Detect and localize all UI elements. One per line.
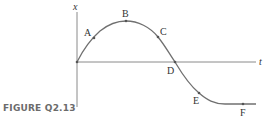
point-b-label: B	[122, 8, 129, 19]
point-a-marker	[93, 37, 96, 40]
point-origin	[76, 61, 79, 64]
point-d-label: D	[167, 65, 174, 76]
figure-caption: FIGURE Q2.13	[3, 103, 76, 113]
point-c-label: C	[160, 26, 167, 37]
point-f-label: F	[240, 107, 246, 118]
point-a-label: A	[84, 27, 92, 38]
vertical-axis-label: x	[72, 1, 78, 12]
horizontal-axis-label: t	[259, 56, 262, 67]
point-c-marker	[157, 36, 160, 39]
point-b-marker	[125, 20, 128, 23]
point-e-marker	[198, 92, 201, 95]
point-f-marker	[242, 103, 245, 106]
point-d-marker	[174, 61, 177, 64]
point-e-label: E	[193, 95, 199, 106]
